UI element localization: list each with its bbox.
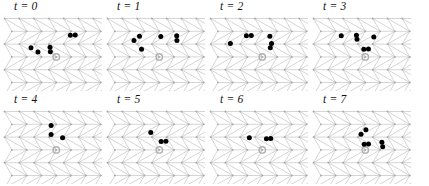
- triangular-lattice: [209, 110, 308, 184]
- triangular-lattice: [106, 110, 205, 184]
- particles: [131, 33, 179, 51]
- triangular-lattice: [312, 17, 411, 91]
- panel-time-label: t = 2: [220, 0, 243, 12]
- panel-time-label: t = 5: [117, 93, 140, 105]
- panel-time-label: t = 7: [323, 93, 346, 105]
- triangular-lattice: [209, 17, 308, 91]
- panel-t0: t = 0: [0, 0, 103, 93]
- panel-time-label: t = 1: [117, 0, 140, 12]
- panel-t7: t = 7: [309, 93, 412, 186]
- particles: [228, 33, 274, 50]
- triangular-lattice: [3, 17, 102, 91]
- particles: [359, 127, 386, 149]
- triangular-lattice: [3, 110, 102, 184]
- panel-t1: t = 1: [103, 0, 206, 93]
- panel-t6: t = 6: [206, 93, 309, 186]
- particles: [49, 123, 65, 140]
- panel-time-label: t = 0: [14, 0, 37, 12]
- panel-t4: t = 4: [0, 93, 103, 186]
- panel-time-label: t = 4: [14, 93, 37, 105]
- panel-t5: t = 5: [103, 93, 206, 186]
- figure-panel-grid: t = 0t = 1t = 2t = 3t = 4t = 5t = 6t = 7: [0, 0, 429, 186]
- panel-t3: t = 3: [309, 0, 412, 93]
- panel-time-label: t = 6: [220, 93, 243, 105]
- panel-t2: t = 2: [206, 0, 309, 93]
- triangular-lattice: [312, 110, 411, 184]
- triangular-lattice: [106, 17, 205, 91]
- panel-time-label: t = 3: [323, 0, 346, 12]
